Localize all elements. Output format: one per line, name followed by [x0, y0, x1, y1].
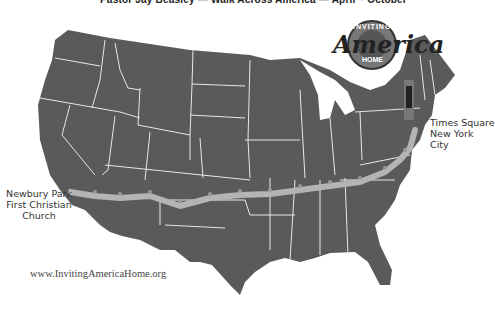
- logo-bottom-text: HOME: [362, 56, 383, 63]
- start-point-label: Newbury Park First Christian Church: [6, 188, 72, 221]
- start-label-line2: First Christian: [6, 199, 72, 210]
- website-url: www.InvitingAmericaHome.org: [30, 268, 166, 279]
- end-point-label: Times Square New York City: [430, 117, 495, 150]
- start-label-line1: Newbury Park: [6, 188, 72, 199]
- end-label-line1: Times Square: [430, 117, 495, 128]
- end-label-line2: New York City: [430, 128, 495, 150]
- logo-top-text: INVITING: [353, 23, 391, 30]
- logo-script-text: America: [333, 30, 444, 59]
- walker-figure: [404, 80, 414, 120]
- start-label-line3: Church: [6, 210, 72, 221]
